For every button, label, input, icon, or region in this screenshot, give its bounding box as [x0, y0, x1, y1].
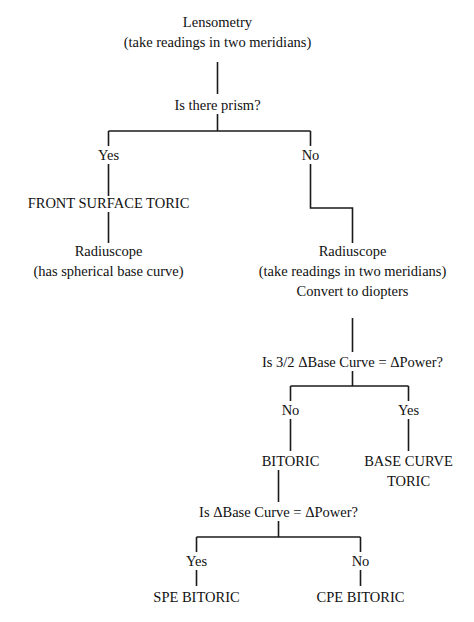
- branch-label-three-halves-yes: Yes: [398, 402, 419, 418]
- edge-no-jog-to-radiuscope-right: [311, 164, 353, 243]
- branch-label-prism-yes: Yes: [98, 147, 119, 163]
- node-radiuscope-right-line3: Convert to diopters: [297, 283, 409, 299]
- node-lensometry-line1: Lensometry: [183, 14, 253, 30]
- branch-label-three-halves-no: No: [282, 402, 300, 418]
- node-spe-bitoric: SPE BITORIC: [153, 589, 239, 605]
- node-is-there-prism: Is there prism?: [174, 97, 260, 113]
- node-radiuscope-right-line1: Radiuscope: [319, 243, 387, 259]
- node-is-three-halves-base-curve: Is 3/2 ΔBase Curve = ΔPower?: [262, 354, 443, 370]
- node-base-curve-toric-line1: BASE CURVE: [364, 453, 453, 469]
- node-radiuscope-left-line2: (has spherical base curve): [33, 263, 183, 280]
- node-radiuscope-left-line1: Radiuscope: [75, 243, 143, 259]
- node-cpe-bitoric: CPE BITORIC: [317, 589, 405, 605]
- node-bitoric: BITORIC: [262, 453, 320, 469]
- node-is-base-curve-equals-power: Is ΔBase Curve = ΔPower?: [199, 504, 358, 520]
- node-base-curve-toric-line2: TORIC: [387, 473, 430, 489]
- branch-label-equals-no: No: [352, 553, 370, 569]
- branch-label-equals-yes: Yes: [186, 553, 207, 569]
- node-front-surface-toric: FRONT SURFACE TORIC: [28, 195, 190, 211]
- node-group: Lensometry (take readings in two meridia…: [28, 14, 453, 605]
- lensometry-flowchart: Lensometry (take readings in two meridia…: [0, 0, 474, 622]
- branch-label-prism-no: No: [302, 147, 320, 163]
- node-lensometry-line2: (take readings in two meridians): [124, 34, 312, 51]
- node-radiuscope-right-line2: (take readings in two meridians): [259, 263, 447, 280]
